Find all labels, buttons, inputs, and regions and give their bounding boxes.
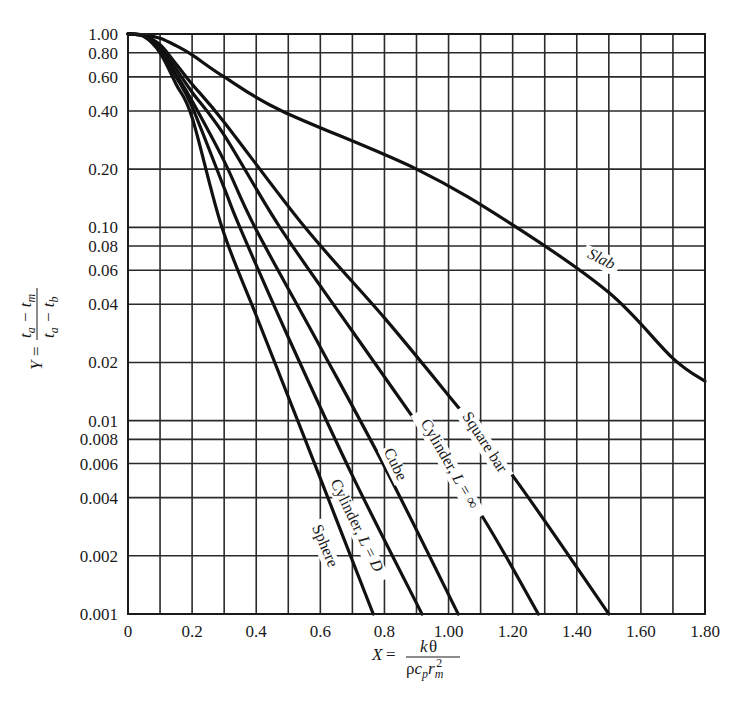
y-tick-label: 0.006 — [80, 455, 118, 474]
svg-text:ta − tm: ta − tm — [16, 294, 38, 338]
y-tick-label: 0.01 — [88, 412, 118, 431]
y-tick-label: 1.00 — [88, 25, 118, 44]
svg-text:ta − tb: ta − tb — [39, 297, 61, 338]
svg-text:k: k — [420, 637, 428, 656]
y-axis-label: Y = ta − tm ta − tb — [16, 288, 61, 370]
y-tick-label: 0.08 — [88, 237, 118, 256]
y-tick-label: 0.06 — [88, 261, 118, 280]
curve-sphere — [128, 34, 373, 614]
y-tick-label: 0.008 — [80, 430, 118, 449]
y-tick-label: 0.02 — [88, 353, 118, 372]
svg-text:ρcprm2: ρcprm2 — [406, 656, 444, 681]
label-slab: Slab — [580, 243, 623, 277]
x-tick-label: 1.40 — [562, 622, 592, 641]
x-tick-label: 0.6 — [310, 622, 331, 641]
x-tick-label: 0.2 — [181, 622, 202, 641]
svg-text:Y: Y — [27, 359, 46, 370]
x-tick-label: 1.60 — [626, 622, 656, 641]
chart: 1.000.800.600.400.200.100.080.060.040.02… — [0, 0, 749, 718]
svg-text:X: X — [371, 645, 383, 664]
svg-text:=: = — [386, 645, 396, 664]
svg-text:Sphere: Sphere — [308, 522, 342, 570]
x-tick-label: 1.00 — [434, 622, 464, 641]
y-tick-label: 0.004 — [80, 489, 119, 508]
x-tick-label: 1.20 — [498, 622, 528, 641]
curve-cylinder-l — [128, 34, 538, 614]
y-tick-label: 0.04 — [88, 295, 118, 314]
svg-text:=: = — [27, 346, 46, 356]
y-axis-ticks: 1.000.800.600.400.200.100.080.060.040.02… — [80, 25, 119, 624]
y-tick-label: 0.40 — [88, 102, 118, 121]
y-tick-label: 0.20 — [88, 160, 118, 179]
x-tick-label: 0.4 — [246, 622, 268, 641]
curve-cylinder-l-d — [128, 34, 422, 614]
svg-text:Square bar: Square bar — [459, 408, 512, 476]
x-tick-label: 1.80 — [690, 622, 720, 641]
x-axis-label: X = k θ ρcprm2 — [371, 637, 460, 681]
x-tick-label: 0.8 — [374, 622, 395, 641]
y-tick-label: 0.001 — [80, 605, 118, 624]
x-tick-label: 0 — [124, 622, 133, 641]
y-tick-label: 0.10 — [88, 218, 118, 237]
curve-cube — [128, 34, 458, 614]
y-tick-label: 0.60 — [88, 68, 118, 87]
y-tick-label: 0.80 — [88, 44, 118, 63]
svg-text:θ: θ — [429, 637, 437, 656]
y-tick-label: 0.002 — [80, 547, 118, 566]
